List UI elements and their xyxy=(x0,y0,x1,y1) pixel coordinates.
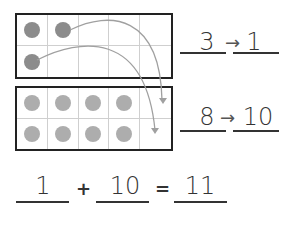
answer-blank xyxy=(174,201,227,203)
row2-from-value: 8 xyxy=(190,105,224,129)
answer-blank xyxy=(16,201,69,203)
arrowhead-icon xyxy=(159,98,167,104)
arrowhead-icon xyxy=(151,128,159,134)
addend-a: 1 xyxy=(28,174,58,198)
addend-b: 10 xyxy=(100,174,150,198)
right-arrow-icon: → xyxy=(225,34,240,52)
answer-blank xyxy=(233,52,279,54)
equals-sign: = xyxy=(155,180,170,198)
row1-from-value: 3 xyxy=(190,30,224,54)
answer-blank xyxy=(233,130,279,132)
right-arrow-icon: → xyxy=(220,109,235,127)
row2-to-value: 10 xyxy=(239,105,277,129)
answer-blank xyxy=(180,130,226,132)
move-arrow-curve xyxy=(70,20,162,100)
plus-sign: + xyxy=(76,180,91,198)
move-arrow-curve xyxy=(37,46,155,130)
row1-to-value: 1 xyxy=(244,30,264,54)
sum-result: 11 xyxy=(180,174,220,198)
answer-blank xyxy=(180,52,226,54)
answer-blank xyxy=(96,201,149,203)
